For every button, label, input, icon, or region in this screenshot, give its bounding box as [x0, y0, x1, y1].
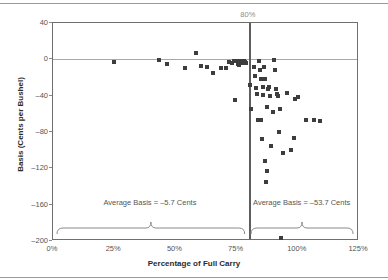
scatter-point: [273, 68, 277, 72]
scatter-point: [244, 61, 248, 65]
scatter-point: [258, 68, 262, 72]
x-tick-label: 75%: [216, 244, 256, 253]
y-tick-label: –160: [8, 199, 48, 208]
scatter-point: [199, 64, 203, 68]
scatter-point: [183, 66, 187, 70]
scatter-point: [233, 98, 237, 102]
left-average-annotation: Average Basis = –5.7 Cents: [103, 197, 196, 206]
scatter-point: [264, 180, 268, 184]
scatter-point: [262, 65, 266, 69]
scatter-point: [165, 62, 169, 66]
full-carry-divider-line: [249, 23, 251, 239]
scatter-point: [224, 66, 228, 70]
scatter-point: [253, 74, 257, 78]
scatter-point: [157, 58, 161, 62]
x-tick-label: 50%: [154, 244, 194, 253]
scatter-point: [205, 65, 209, 69]
scatter-point: [276, 94, 280, 98]
scatter-point: [248, 83, 252, 87]
y-tick-label: 40: [8, 18, 48, 27]
scatter-point: [289, 148, 293, 152]
x-tick-label: 125%: [338, 244, 378, 253]
right-group-brace: [250, 220, 354, 234]
scatter-point: [304, 118, 308, 122]
scatter-point: [277, 130, 281, 134]
y-tick-mark: [49, 240, 52, 241]
x-tick-label: 25%: [93, 244, 133, 253]
scatter-point: [296, 95, 300, 99]
zero-basis-line: [53, 59, 357, 60]
y-tick-label: 0: [8, 54, 48, 63]
scatter-point: [312, 118, 316, 122]
scatter-point: [271, 110, 275, 114]
top-divider-rule: [0, 3, 388, 4]
scatter-point: [268, 94, 272, 98]
scatter-point: [252, 65, 256, 69]
scatter-point: [260, 137, 264, 141]
scatter-point: [292, 136, 296, 140]
left-group-brace: [56, 220, 246, 234]
scatter-point: [272, 58, 276, 62]
scatter-point: [263, 159, 267, 163]
chart-figure: Basis (Cents per Bushel) Percentage of F…: [0, 0, 388, 280]
scatter-point: [318, 119, 322, 123]
scatter-point: [285, 91, 289, 95]
x-axis-title: Percentage of Full Carry: [0, 259, 388, 268]
scatter-point: [249, 107, 253, 111]
scatter-point: [257, 59, 261, 63]
scatter-point: [219, 66, 223, 70]
scatter-point: [267, 85, 271, 89]
full-carry-divider-label: 80%: [228, 10, 268, 19]
scatter-point: [255, 92, 259, 96]
y-tick-label: –120: [8, 163, 48, 172]
scatter-point: [274, 87, 278, 91]
scatter-point: [259, 118, 263, 122]
x-tick-label: 100%: [277, 244, 317, 253]
scatter-point: [261, 85, 265, 89]
scatter-point: [254, 86, 258, 90]
y-axis-title: Basis (Cents per Bushel): [16, 45, 25, 205]
scatter-point: [194, 51, 198, 55]
scatter-point: [265, 105, 269, 109]
y-tick-label: –40: [8, 90, 48, 99]
scatter-point: [278, 107, 282, 111]
y-tick-label: –80: [8, 127, 48, 136]
scatter-point: [281, 151, 285, 155]
right-average-annotation: Average Basis = –53.7 Cents: [253, 197, 350, 206]
scatter-point: [279, 236, 283, 240]
scatter-point: [112, 60, 116, 64]
bottom-divider-rule: [0, 277, 388, 278]
scatter-point: [265, 169, 269, 173]
scatter-plot-area: [52, 22, 358, 240]
scatter-point: [211, 71, 215, 75]
x-tick-label: 0%: [32, 244, 72, 253]
scatter-point: [269, 144, 273, 148]
scatter-point: [263, 77, 267, 81]
scatter-point: [261, 93, 265, 97]
